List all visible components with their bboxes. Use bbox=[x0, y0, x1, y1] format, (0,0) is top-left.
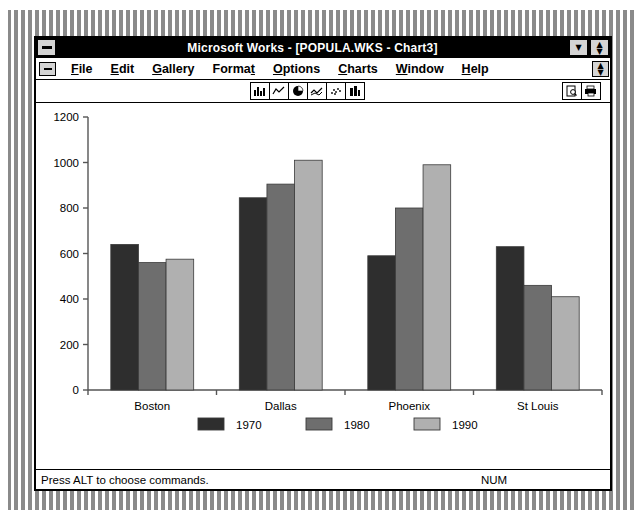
y-axis-tick-label: 1200 bbox=[53, 111, 79, 123]
menu-item-gallery[interactable]: Gallery bbox=[143, 62, 203, 76]
bar-chart[interactable]: 020040060080010001200BostonDallasPhoenix… bbox=[36, 103, 610, 456]
bar[interactable] bbox=[496, 247, 524, 390]
x-axis-category-label: Phoenix bbox=[388, 400, 430, 412]
chart-type-button-group bbox=[250, 82, 366, 100]
menu-item-edit[interactable]: Edit bbox=[102, 62, 144, 76]
bar[interactable] bbox=[166, 259, 194, 390]
menu-item-options[interactable]: Options bbox=[264, 62, 329, 76]
status-num-indicator: NUM bbox=[481, 474, 507, 486]
bar[interactable] bbox=[423, 165, 451, 390]
legend-swatch bbox=[198, 418, 224, 430]
menu-item-window[interactable]: Window bbox=[387, 62, 453, 76]
legend-label: 1980 bbox=[344, 419, 370, 431]
minimize-icon[interactable]: ▼ bbox=[569, 39, 588, 56]
desktop-margin-bottom bbox=[0, 510, 642, 518]
legend-swatch bbox=[414, 418, 440, 430]
desktop-margin-right bbox=[634, 0, 642, 518]
document-restore-glyph: ▲▼ bbox=[597, 62, 603, 76]
bar[interactable] bbox=[295, 160, 323, 390]
bar[interactable] bbox=[368, 256, 396, 390]
scatter-chart-icon[interactable] bbox=[326, 82, 346, 100]
bar[interactable] bbox=[239, 198, 267, 390]
area-chart-icon[interactable] bbox=[307, 82, 327, 100]
tool-bar bbox=[36, 80, 610, 103]
y-axis-tick-label: 1000 bbox=[53, 157, 79, 169]
x-axis-category-label: Boston bbox=[134, 400, 170, 412]
legend-label: 1990 bbox=[452, 419, 478, 431]
bar[interactable] bbox=[138, 263, 166, 390]
y-axis-tick-label: 800 bbox=[60, 202, 79, 214]
system-menu-glyph bbox=[42, 46, 52, 49]
window-title: Microsoft Works - [POPULA.WKS - Chart3] bbox=[57, 41, 568, 55]
status-message: Press ALT to choose commands. bbox=[36, 474, 209, 486]
y-axis-tick-label: 400 bbox=[60, 293, 79, 305]
document-system-menu-icon[interactable] bbox=[39, 62, 56, 76]
menu-item-format[interactable]: Format bbox=[204, 62, 264, 76]
chart-pane: 020040060080010001200BostonDallasPhoenix… bbox=[36, 103, 610, 456]
restore-icon[interactable]: ▲▼ bbox=[590, 39, 609, 56]
desktop-margin-left bbox=[0, 0, 8, 518]
status-bar: Press ALT to choose commands. NUM bbox=[36, 469, 610, 489]
line-chart-icon[interactable] bbox=[269, 82, 289, 100]
desktop-margin-top bbox=[0, 0, 642, 10]
system-menu-icon[interactable] bbox=[37, 39, 56, 56]
bar[interactable] bbox=[395, 208, 423, 390]
restore-glyph: ▲▼ bbox=[596, 41, 602, 55]
document-system-menu-glyph bbox=[44, 68, 52, 70]
application-window: Microsoft Works - [POPULA.WKS - Chart3] … bbox=[34, 36, 612, 491]
x-axis-category-label: Dallas bbox=[265, 400, 297, 412]
bar[interactable] bbox=[111, 244, 139, 390]
bar-chart-icon[interactable] bbox=[250, 82, 270, 100]
bar[interactable] bbox=[524, 285, 552, 390]
y-axis-tick-label: 0 bbox=[73, 384, 79, 396]
menu-item-charts[interactable]: Charts bbox=[329, 62, 387, 76]
legend-label: 1970 bbox=[236, 419, 262, 431]
stacked-bar-chart-icon[interactable] bbox=[345, 82, 365, 100]
print-button-group bbox=[562, 82, 602, 100]
document-restore-icon[interactable]: ▲▼ bbox=[592, 61, 609, 77]
bar[interactable] bbox=[267, 184, 295, 390]
menu-item-help[interactable]: Help bbox=[453, 62, 498, 76]
bar[interactable] bbox=[552, 297, 580, 390]
menu-bar: File Edit Gallery Format Options Charts … bbox=[36, 58, 610, 80]
minimize-glyph: ▼ bbox=[575, 44, 581, 51]
menu-item-file[interactable]: File bbox=[62, 62, 102, 76]
print-preview-icon[interactable] bbox=[562, 82, 582, 100]
title-bar[interactable]: Microsoft Works - [POPULA.WKS - Chart3] … bbox=[36, 38, 610, 58]
y-axis-tick-label: 600 bbox=[60, 248, 79, 260]
legend-swatch bbox=[306, 418, 332, 430]
print-icon[interactable] bbox=[581, 82, 601, 100]
y-axis-tick-label: 200 bbox=[60, 339, 79, 351]
pie-chart-icon[interactable] bbox=[288, 82, 308, 100]
x-axis-category-label: St Louis bbox=[517, 400, 559, 412]
